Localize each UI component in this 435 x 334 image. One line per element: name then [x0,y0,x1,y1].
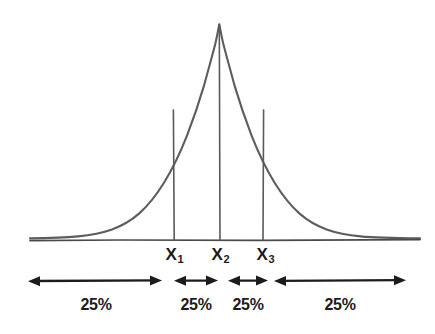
axis-label-x2-base: X [211,245,222,264]
axis-label-x1-base: X [165,245,176,264]
percent-label-segment-4: 25% [324,296,355,314]
measurement-arrow-2 [174,276,218,286]
distribution-drawing [0,0,435,334]
x-axis-baseline [30,240,420,241]
normal-distribution-figure: X1 X2 X3 25% 25% 25% 25% [0,0,435,334]
axis-label-x2-subscript: 2 [224,253,230,265]
quartile-line-x3 [263,110,264,240]
quartile-line-x2 [219,25,220,241]
axis-label-x3-base: X [256,245,267,264]
quartile-line-x1 [173,110,174,240]
bell-curve-path [30,24,420,238]
axis-label-x1: X1 [165,245,182,265]
axis-label-x3-subscript: 3 [269,253,275,265]
measurement-arrow-3 [228,276,268,286]
percent-label-segment-2: 25% [180,296,211,314]
axis-label-x1-subscript: 1 [178,253,184,265]
percent-label-segment-1: 25% [80,296,111,314]
axis-label-x3: X3 [256,245,273,265]
percent-label-segment-3: 25% [232,296,263,314]
axis-label-x2: X2 [211,245,228,265]
measurement-arrow-4 [274,275,406,286]
measurement-arrow-1 [28,275,162,286]
